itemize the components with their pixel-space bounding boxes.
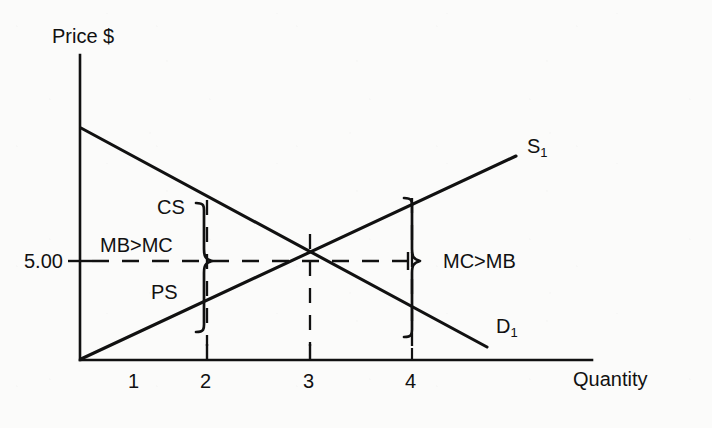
right-brace	[404, 198, 420, 337]
y-tick-label-500: 5.00	[24, 251, 63, 271]
y-axis-label: Price $	[52, 26, 114, 46]
tick-marks-group	[68, 261, 412, 360]
demand-curve-label-base: D	[496, 315, 510, 337]
x-tick-label-1: 1	[128, 371, 139, 391]
x-tick-label-4: 4	[405, 371, 416, 391]
supply-curve-label-base: S	[527, 135, 540, 157]
x-tick-label-2: 2	[200, 371, 211, 391]
supply-curve-label: S1	[527, 136, 548, 156]
demand-curve-label: D1	[496, 316, 518, 336]
x-axis-label: Quantity	[573, 369, 647, 389]
supply-curve-label-subscript: 1	[540, 145, 547, 160]
producer-surplus-label: PS	[151, 282, 178, 302]
chart-canvas	[0, 0, 712, 428]
left-brace	[196, 203, 212, 332]
mc-greater-than-mb-label: MC>MB	[443, 251, 516, 271]
supply-demand-chart: Price $ Quantity 5.00 1 2 3 4 S1 D1 CS M…	[0, 0, 712, 428]
consumer-surplus-label: CS	[157, 197, 185, 217]
mb-greater-than-mc-label: MB>MC	[100, 235, 173, 255]
demand-curve-label-subscript: 1	[510, 325, 517, 340]
x-tick-label-3: 3	[303, 371, 314, 391]
